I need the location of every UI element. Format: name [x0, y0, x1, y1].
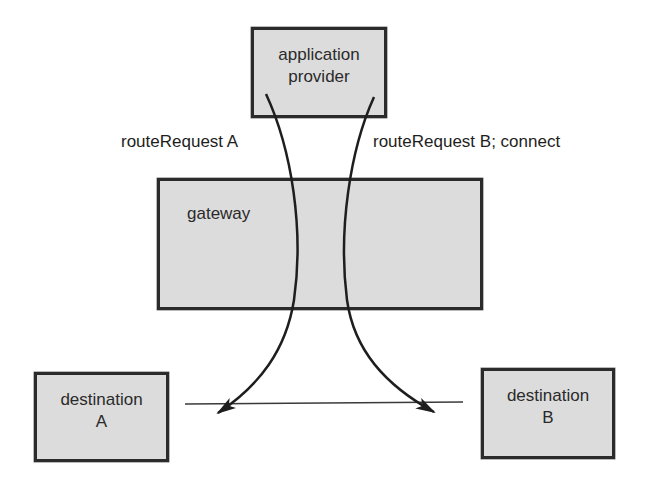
connector-layer — [0, 0, 648, 483]
route-a-arrow — [218, 94, 298, 413]
route-b-arrow — [344, 97, 434, 412]
